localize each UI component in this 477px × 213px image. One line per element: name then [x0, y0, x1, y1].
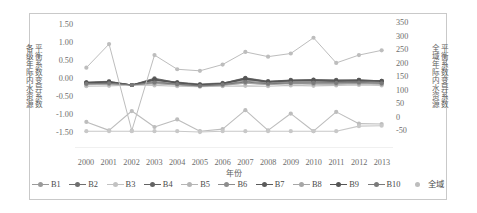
point-全域-flat-2004 [175, 129, 179, 133]
point-B10-2011 [334, 81, 338, 85]
point-全域-2009 [289, 51, 293, 55]
right-axis-title-line1: 全域年际内水资源 [430, 44, 439, 108]
point-B10-2013 [380, 81, 384, 85]
legend-swatch-B9-icon [330, 181, 347, 188]
right-tick-8: -50 [396, 124, 422, 138]
left-tick-0: 1.50 [47, 16, 73, 34]
legend-label-B8: B8 [312, 180, 322, 189]
point-B10-2001 [107, 81, 111, 85]
x-tick-2004: 2004 [166, 158, 188, 167]
right-tick-3: 200 [396, 57, 422, 71]
legend-item-B2[interactable]: B2 [69, 180, 98, 189]
x-tick-2003: 2003 [143, 158, 165, 167]
x-tick-2006: 2006 [212, 158, 234, 167]
point-B10-2006 [221, 82, 225, 86]
point-全域-flat-2010 [311, 129, 315, 133]
legend-label-B1: B1 [51, 180, 61, 189]
point-全域-flat-2005 [198, 130, 202, 134]
x-tick-2012: 2012 [348, 158, 370, 167]
legend-label-B6: B6 [237, 180, 247, 189]
left-tick-4: -0.50 [47, 88, 73, 106]
point-全域-low-2009 [289, 111, 293, 115]
legend-label-B9: B9 [349, 180, 359, 189]
point-全域-2013 [380, 48, 384, 52]
right-tick-7: 0 [396, 111, 422, 125]
legend-swatch-B8-icon [293, 181, 310, 188]
right-tick-0: 350 [396, 16, 422, 30]
point-全域-flat-2008 [266, 129, 270, 133]
legend-item-B10[interactable]: B10 [368, 180, 401, 189]
x-axis-title: 年份 [75, 167, 393, 178]
chart-canvas [75, 22, 393, 148]
legend-swatch-B7-icon [256, 181, 273, 188]
point-全域-flat-2006 [221, 129, 225, 133]
legend-swatch-B2-icon [69, 181, 86, 188]
legend-item-B6[interactable]: B6 [218, 180, 247, 189]
legend-label-B7: B7 [275, 180, 285, 189]
point-全域-2004 [175, 67, 179, 71]
legend-label-B3: B3 [126, 180, 136, 189]
legend-label-全域: 全域 [428, 180, 444, 189]
legend-swatch-B3-icon [107, 181, 124, 188]
x-tick-2011: 2011 [325, 158, 347, 167]
left-tick-5: -1.00 [47, 106, 73, 124]
legend-item-B1[interactable]: B1 [32, 180, 61, 189]
left-axis-title-line1: 各级年际内水资源 [24, 44, 33, 108]
point-B10-2000 [84, 82, 88, 86]
point-B10-2002 [130, 83, 134, 87]
chart-legend: B1B2B3B4B5B6B7B8B9B10全域 [32, 180, 444, 189]
point-B10-2005 [198, 84, 202, 88]
left-tick-2: 0.50 [47, 52, 73, 70]
x-tick-2008: 2008 [257, 158, 279, 167]
x-tick-2005: 2005 [189, 158, 211, 167]
plot-area [75, 22, 393, 148]
point-全域-low-2011 [334, 110, 338, 114]
x-tick-2013: 2013 [371, 158, 393, 167]
x-tick-2009: 2009 [280, 158, 302, 167]
point-全域-2000 [84, 66, 88, 70]
point-全域-low-2007 [243, 108, 247, 112]
point-B10-2009 [289, 81, 293, 85]
point-B10-2008 [266, 82, 270, 86]
legend-label-B2: B2 [88, 180, 98, 189]
right-tick-4: 150 [396, 70, 422, 84]
point-全域-flat-2011 [334, 129, 338, 133]
point-全域-flat-2003 [152, 129, 156, 133]
series-全域-flat [84, 124, 383, 135]
left-axis-title-line2: 平衡系数变异系数 [33, 44, 42, 108]
legend-item-B3[interactable]: B3 [107, 180, 136, 189]
legend-item-全域[interactable]: 全域 [409, 180, 444, 189]
x-tick-2007: 2007 [234, 158, 256, 167]
point-全域-2008 [266, 55, 270, 59]
legend-item-B9[interactable]: B9 [330, 180, 359, 189]
legend-swatch-B1-icon [32, 181, 49, 188]
legend-label-B4: B4 [163, 180, 173, 189]
point-全域-flat-2001 [107, 129, 111, 133]
right-tick-5: 100 [396, 84, 422, 98]
legend-item-B5[interactable]: B5 [181, 180, 210, 189]
legend-label-B10: B10 [387, 180, 401, 189]
point-全域-2005 [198, 69, 202, 73]
legend-item-B8[interactable]: B8 [293, 180, 322, 189]
point-B10-2012 [357, 80, 361, 84]
point-B10-2003 [152, 80, 156, 84]
point-B10-2010 [311, 81, 315, 85]
point-全域-2007 [243, 50, 247, 54]
x-tick-2002: 2002 [121, 158, 143, 167]
legend-item-B7[interactable]: B7 [256, 180, 285, 189]
point-B10-2004 [175, 82, 179, 86]
legend-item-B4[interactable]: B4 [144, 180, 173, 189]
point-全域-low-2004 [175, 117, 179, 121]
x-axis-ticks: 2000200120022003200420052006200720082009… [75, 158, 393, 167]
right-tick-6: 50 [396, 97, 422, 111]
point-全域-flat-2012 [357, 124, 361, 128]
left-tick-6: -1.50 [47, 124, 73, 142]
legend-swatch-B5-icon [181, 181, 198, 188]
point-全域-2012 [357, 53, 361, 57]
legend-swatch-B10-icon [368, 181, 385, 188]
legend-swatch-B4-icon [144, 181, 161, 188]
point-全域-flat-2002 [130, 129, 134, 133]
point-全域-flat-2000 [84, 129, 88, 133]
legend-swatch-B6-icon [218, 181, 235, 188]
point-全域-2001 [107, 42, 111, 46]
